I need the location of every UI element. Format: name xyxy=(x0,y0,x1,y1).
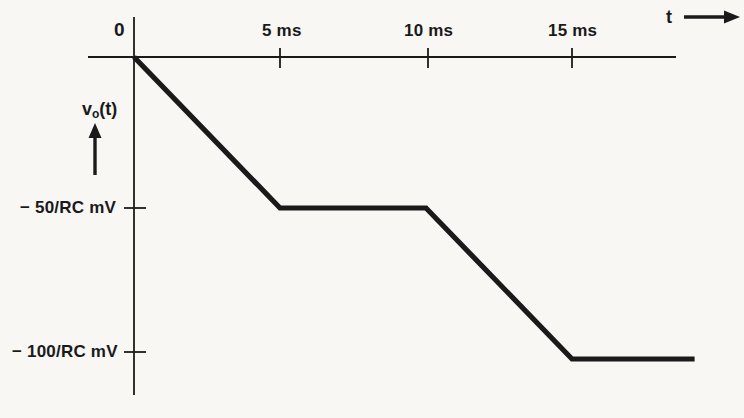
x-tick-label-15ms: 15 ms xyxy=(548,22,597,39)
t-axis-label: t xyxy=(666,8,672,26)
v-axis-label-tail: (t) xyxy=(99,99,117,119)
y-tick-label-minus100: − 100/RC mV xyxy=(12,343,118,360)
t-axis-arrow-icon xyxy=(684,11,740,24)
y-tick-label-minus50: − 50/RC mV xyxy=(20,199,116,216)
waveform-trace xyxy=(134,57,695,359)
v-axis-label: vo(t) xyxy=(82,100,117,120)
x-tick-label-10ms: 10 ms xyxy=(404,22,453,39)
v-axis-label-main: v xyxy=(82,99,92,119)
chart-canvas: 0 5 ms 10 ms 15 ms − 50/RC mV − 100/RC m… xyxy=(0,0,744,418)
v-axis-arrow-icon xyxy=(89,123,102,175)
origin-label: 0 xyxy=(114,20,125,39)
x-tick-label-5ms: 5 ms xyxy=(262,22,302,39)
